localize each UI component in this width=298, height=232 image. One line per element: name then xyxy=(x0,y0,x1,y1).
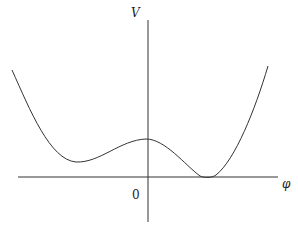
potential-plot xyxy=(0,0,298,232)
origin-label: 0 xyxy=(132,188,140,202)
x-axis-label: φ xyxy=(282,177,290,191)
y-axis-label: V xyxy=(131,6,140,20)
potential-curve xyxy=(12,66,268,177)
